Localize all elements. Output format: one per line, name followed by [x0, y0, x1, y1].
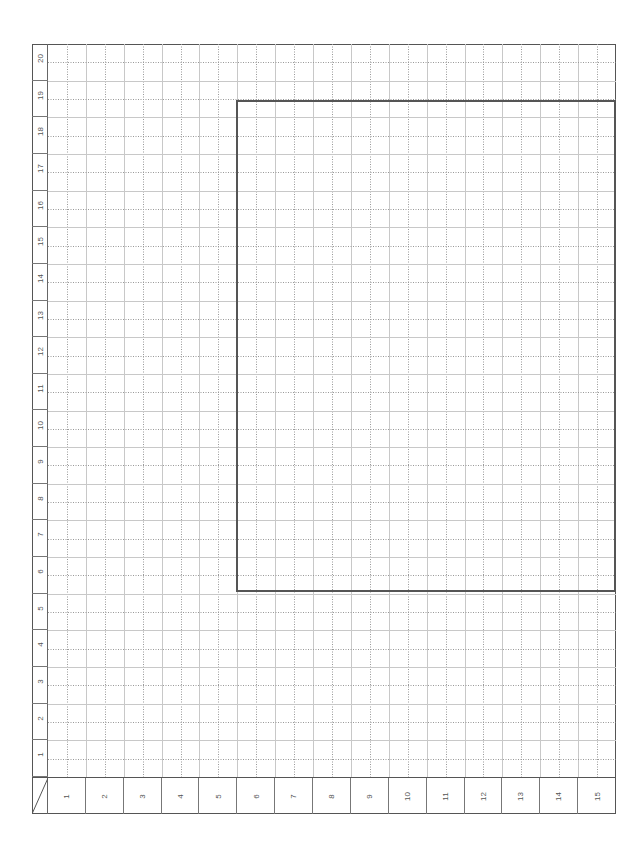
row-label-text: 20 [36, 54, 45, 63]
row-label-17: 17 [32, 154, 48, 191]
column-label-1: 1 [48, 778, 86, 814]
column-label-5: 5 [199, 778, 237, 814]
row-label-text: 19 [36, 91, 45, 100]
column-label-12: 12 [465, 778, 503, 814]
highlight-rectangle [236, 100, 616, 592]
row-label-12: 12 [32, 337, 48, 374]
column-label-text: 3 [138, 794, 147, 798]
column-label-8: 8 [313, 778, 351, 814]
row-label-text: 8 [35, 496, 44, 500]
row-label-1: 1 [32, 740, 48, 777]
row-label-14: 14 [32, 264, 48, 301]
column-label-text: 1 [62, 794, 71, 798]
row-label-text: 10 [36, 421, 45, 430]
column-label-text: 5 [213, 794, 222, 798]
row-label-6: 6 [32, 557, 48, 594]
row-label-20: 20 [32, 44, 48, 81]
row-label-text: 14 [36, 274, 45, 283]
column-label-text: 12 [478, 792, 487, 801]
row-label-text: 5 [35, 606, 44, 610]
column-label-14: 14 [540, 778, 578, 814]
column-label-9: 9 [351, 778, 389, 814]
row-label-3: 3 [32, 667, 48, 704]
column-label-text: 2 [100, 794, 109, 798]
row-label-16: 16 [32, 191, 48, 228]
row-label-text: 4 [35, 643, 44, 647]
row-label-text: 17 [36, 164, 45, 173]
row-label-text: 13 [36, 311, 45, 320]
row-label-19: 19 [32, 81, 48, 118]
row-label-text: 7 [35, 533, 44, 537]
diagonal-line-icon [32, 778, 48, 814]
column-label-text: 14 [554, 792, 563, 801]
column-label-13: 13 [502, 778, 540, 814]
column-label-text: 8 [327, 794, 336, 798]
row-label-11: 11 [32, 374, 48, 411]
column-label-text: 7 [289, 794, 298, 798]
column-label-text: 4 [176, 794, 185, 798]
column-label-2: 2 [86, 778, 124, 814]
column-label-4: 4 [162, 778, 200, 814]
row-label-text: 12 [36, 347, 45, 356]
row-label-text: 2 [35, 716, 44, 720]
row-label-column: 2019181716151413121110987654321 [32, 44, 48, 777]
column-label-3: 3 [124, 778, 162, 814]
row-label-8: 8 [32, 484, 48, 521]
column-label-text: 6 [251, 794, 260, 798]
row-label-text: 6 [35, 569, 44, 573]
column-label-text: 10 [403, 792, 412, 801]
row-label-9: 9 [32, 447, 48, 484]
column-label-row: 123456789101112131415 [32, 777, 616, 814]
row-label-text: 16 [36, 201, 45, 210]
row-label-text: 1 [35, 753, 44, 757]
column-label-text: 15 [593, 792, 602, 801]
row-label-15: 15 [32, 227, 48, 264]
corner-cell [32, 778, 48, 814]
row-label-text: 9 [35, 459, 44, 463]
column-label-15: 15 [578, 778, 616, 814]
column-label-6: 6 [237, 778, 275, 814]
row-label-text: 3 [35, 679, 44, 683]
row-label-text: 18 [36, 127, 45, 136]
column-label-10: 10 [389, 778, 427, 814]
column-label-11: 11 [427, 778, 465, 814]
column-label-7: 7 [275, 778, 313, 814]
row-label-4: 4 [32, 630, 48, 667]
column-label-text: 13 [516, 792, 525, 801]
row-label-18: 18 [32, 117, 48, 154]
row-label-13: 13 [32, 301, 48, 338]
column-label-text: 11 [441, 792, 450, 800]
row-label-5: 5 [32, 594, 48, 631]
row-label-2: 2 [32, 704, 48, 741]
column-label-text: 9 [365, 794, 374, 798]
row-label-text: 15 [36, 237, 45, 246]
row-label-10: 10 [32, 411, 48, 448]
row-label-7: 7 [32, 520, 48, 557]
row-label-text: 11 [36, 384, 45, 392]
